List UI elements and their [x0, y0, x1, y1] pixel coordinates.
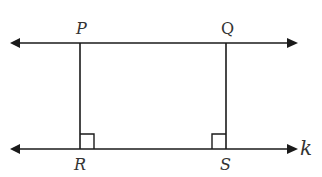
label-k: k	[300, 136, 312, 160]
left-arrowhead-icon	[10, 38, 20, 48]
parallel-lines-diagram: P Q R S k	[0, 0, 322, 177]
right-angle-marker-r	[80, 134, 94, 149]
line-k	[10, 144, 298, 154]
label-q: Q	[221, 19, 234, 38]
right-arrowhead-icon	[287, 38, 298, 48]
top-line	[10, 38, 298, 48]
label-p: P	[75, 19, 87, 38]
label-s: S	[220, 155, 231, 174]
label-r: R	[73, 155, 86, 174]
left-arrowhead-icon	[10, 144, 20, 154]
right-arrowhead-icon	[287, 144, 298, 154]
right-angle-marker-s	[212, 134, 226, 149]
